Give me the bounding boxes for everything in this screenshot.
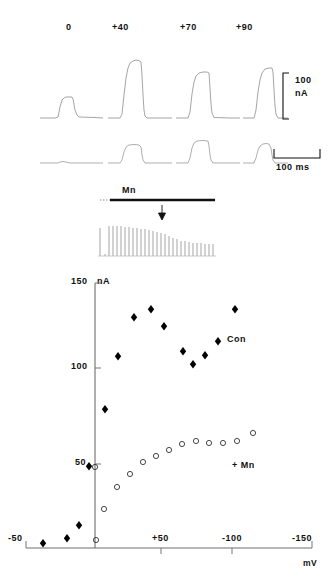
data-point	[220, 440, 225, 445]
trace-control-0mv	[40, 97, 103, 118]
data-point	[102, 405, 108, 413]
data-point	[232, 305, 238, 313]
data-point	[101, 506, 106, 511]
data-point	[180, 347, 186, 355]
data-point	[153, 453, 158, 458]
data-point	[40, 539, 46, 547]
current-scale-bracket	[283, 73, 289, 119]
trace-control-90mv	[243, 68, 288, 118]
data-point	[76, 521, 82, 529]
data-point	[86, 462, 92, 470]
series-con-markers	[40, 305, 238, 547]
data-point	[193, 438, 198, 443]
data-point	[127, 471, 132, 476]
data-point	[206, 440, 211, 445]
data-point	[250, 430, 255, 435]
data-point	[215, 337, 221, 345]
series-mn-markers	[92, 430, 255, 542]
data-point	[140, 459, 145, 464]
data-point	[166, 447, 171, 452]
data-point	[114, 484, 119, 489]
trace-mn-90mv	[243, 144, 288, 164]
trace-mn-0mv	[40, 162, 103, 164]
data-point	[131, 313, 137, 321]
data-point	[179, 441, 184, 446]
mn-arrow-icon	[159, 205, 166, 220]
electrophysiology-figure: 0 +40 +70 +90 100 nA 100 ms Mn 150 100 5…	[0, 0, 336, 587]
data-point	[93, 537, 98, 542]
trace-control-70mv	[176, 72, 240, 118]
trace-control-40mv	[108, 60, 172, 118]
data-point	[115, 352, 121, 360]
data-point	[161, 322, 167, 330]
trace-row-mn	[40, 141, 288, 164]
figure-vector-layer	[0, 0, 336, 587]
data-point	[234, 438, 239, 443]
trace-row-control	[40, 60, 288, 118]
plot-axes	[26, 283, 312, 554]
data-point	[148, 305, 154, 313]
data-point	[202, 351, 208, 359]
mn-spike-train	[98, 226, 216, 256]
trace-mn-70mv	[176, 141, 240, 164]
data-point	[64, 534, 70, 542]
data-point	[190, 360, 196, 368]
trace-mn-40mv	[108, 145, 172, 164]
time-scale-bracket	[274, 149, 320, 158]
